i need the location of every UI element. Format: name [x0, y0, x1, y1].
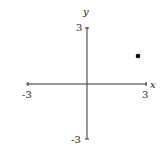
- y-tick-label-max: 3: [76, 22, 82, 33]
- y-axis-label: y: [82, 6, 89, 17]
- x-tick-label-min: -3: [22, 89, 32, 100]
- x-axis-label: x: [150, 79, 156, 90]
- x-tick-label-max: 3: [142, 89, 148, 100]
- y-tick-label-min: -3: [71, 134, 81, 145]
- data-point: [136, 54, 141, 59]
- coordinate-plane: y 3 -3 x -3 3: [0, 0, 161, 157]
